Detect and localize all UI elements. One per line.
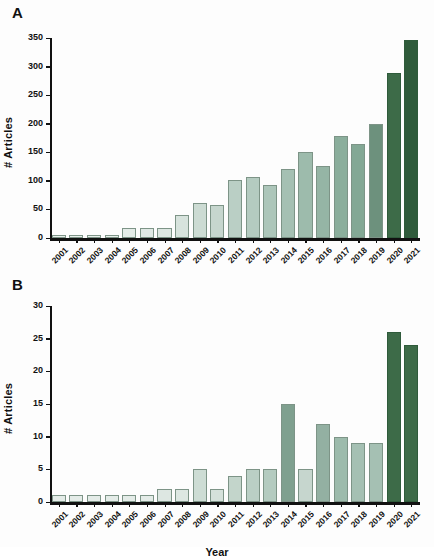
bar-2006[interactable] [140,495,154,502]
x-axis-tick [112,240,113,243]
bar-2020[interactable] [387,332,401,502]
x-axis-tick [358,240,359,243]
x-axis-tick [270,240,271,243]
y-axis-tick-label: 350 [10,32,43,42]
bar-2009[interactable] [193,469,207,502]
y-axis-tick-label: 5 [10,463,43,473]
x-axis-tick [394,504,395,507]
x-axis-tick [147,240,148,243]
bar-2003[interactable] [87,235,101,238]
x-axis-tick [112,504,113,507]
x-axis-tick [376,504,377,507]
x-axis-tick [129,240,130,243]
bar-2011[interactable] [228,180,242,238]
x-axis-tick [235,240,236,243]
y-axis-tick-label: 200 [10,118,43,128]
x-axis-tick [182,504,183,507]
y-axis-tick-label: 30 [10,300,43,310]
bar-2001[interactable] [52,235,66,238]
x-axis-tick [253,504,254,507]
bar-2004[interactable] [105,235,119,238]
x-axis-tick [129,504,130,507]
x-axis-tick [200,504,201,507]
x-axis-tick [200,240,201,243]
y-axis-tick-label: 0 [10,496,43,506]
bar-2011[interactable] [228,476,242,502]
y-axis-tick-label: 100 [10,175,43,185]
bar-2013[interactable] [263,469,277,502]
x-axis-tick [376,240,377,243]
bar-2014[interactable] [281,404,295,502]
bar-2010[interactable] [210,489,224,502]
panel-b: B # Articles0510152025302001200220032004… [0,272,434,547]
x-axis-tick [217,240,218,243]
bar-2018[interactable] [351,443,365,502]
bar-series [50,38,420,238]
bar-2015[interactable] [298,469,312,502]
x-axis-tick [394,240,395,243]
x-axis-tick [305,504,306,507]
bar-2019[interactable] [369,443,383,502]
x-axis-tick [288,504,289,507]
bar-2004[interactable] [105,495,119,502]
bar-2016[interactable] [316,166,330,238]
bar-2007[interactable] [157,489,171,502]
x-axis-tick [358,504,359,507]
bar-2014[interactable] [281,169,295,238]
bar-2012[interactable] [246,177,260,238]
y-axis-label: # Articles [2,383,14,434]
panel-b-letter: B [12,276,23,293]
y-axis-tick-label: 10 [10,431,43,441]
bar-2009[interactable] [193,203,207,238]
x-axis-tick [147,504,148,507]
panel-a-letter: A [12,4,23,21]
bar-2021[interactable] [404,40,418,238]
y-axis-tick-label: 0 [10,232,43,242]
bar-2017[interactable] [334,136,348,238]
panel-a: A # Articles0501001502002503003502001200… [0,0,434,272]
bar-2005[interactable] [122,228,136,238]
bar-series [50,306,420,502]
x-axis-tick [76,504,77,507]
bar-2008[interactable] [175,489,189,502]
y-axis-tick-label: 50 [10,203,43,213]
bar-2002[interactable] [69,495,83,502]
x-axis-tick [94,504,95,507]
bar-2007[interactable] [157,228,171,238]
x-axis-tick [165,240,166,243]
bar-2015[interactable] [298,152,312,238]
x-axis-tick [323,240,324,243]
x-axis-tick [217,504,218,507]
y-axis-tick-label: 15 [10,398,43,408]
x-axis-tick [411,240,412,243]
bar-2020[interactable] [387,73,401,238]
bar-2016[interactable] [316,424,330,502]
bar-2010[interactable] [210,205,224,238]
x-axis-tick [341,504,342,507]
x-axis-tick [76,240,77,243]
x-axis-tick [235,504,236,507]
bar-2001[interactable] [52,495,66,502]
x-axis-tick [305,240,306,243]
x-axis-tick [323,504,324,507]
y-axis-tick-label: 300 [10,61,43,71]
x-axis-tick [59,240,60,243]
x-axis-tick [253,240,254,243]
bar-2005[interactable] [122,495,136,502]
bar-2006[interactable] [140,228,154,238]
bar-2012[interactable] [246,469,260,502]
bar-2008[interactable] [175,215,189,238]
x-axis-tick [182,240,183,243]
bar-2021[interactable] [404,345,418,502]
bar-2002[interactable] [69,235,83,238]
bar-2013[interactable] [263,185,277,238]
x-axis-tick [341,240,342,243]
bar-2017[interactable] [334,437,348,502]
bar-2019[interactable] [369,124,383,238]
x-axis-tick [411,504,412,507]
bar-2003[interactable] [87,495,101,502]
y-axis-tick-label: 250 [10,89,43,99]
bar-2018[interactable] [351,144,365,238]
x-axis-tick [94,240,95,243]
